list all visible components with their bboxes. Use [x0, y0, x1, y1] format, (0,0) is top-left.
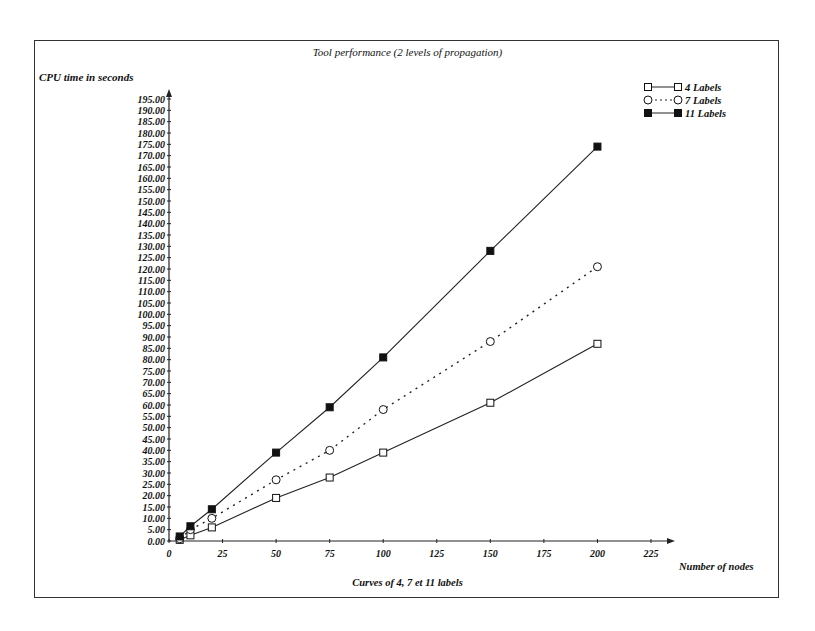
y-tick-label: 135.00	[138, 230, 166, 241]
y-tick-label: 195.00	[138, 94, 166, 105]
x-tick-label: 50	[271, 548, 281, 559]
y-tick-label: 155.00	[138, 184, 166, 195]
data-point-marker-icon	[594, 143, 601, 150]
data-point-marker-icon	[208, 514, 216, 522]
legend-item: 4 Labels	[645, 82, 722, 93]
data-point-marker-icon	[273, 449, 280, 456]
y-tick-label: 60.00	[143, 400, 166, 411]
y-tick-label: 0.00	[148, 536, 166, 547]
data-point-marker-icon	[593, 263, 601, 271]
y-tick-label: 15.00	[143, 502, 166, 513]
y-tick-label: 50.00	[143, 422, 166, 433]
legend-marker-icon	[675, 84, 682, 91]
legend-marker-icon	[644, 96, 652, 104]
y-tick-label: 95.00	[143, 320, 166, 331]
y-tick-label: 65.00	[143, 388, 166, 399]
y-tick-label: 35.00	[142, 456, 166, 467]
legend-label: 4 Labels	[684, 82, 721, 93]
y-tick-label: 10.00	[143, 513, 166, 524]
y-tick-label: 130.00	[138, 241, 166, 252]
y-axis-ticks: 0.005.0010.0015.0020.0025.0030.0035.0040…	[138, 94, 172, 547]
y-tick-label: 115.00	[138, 275, 165, 286]
legend-item: 11 Labels	[645, 108, 727, 119]
y-tick-label: 125.00	[138, 252, 166, 263]
series-11-labels	[176, 143, 601, 540]
y-tick-label: 100.00	[138, 309, 166, 320]
data-point-marker-icon	[208, 524, 215, 531]
plot-area: 0.005.0010.0015.0020.0025.0030.0035.0040…	[0, 0, 815, 631]
data-point-marker-icon	[380, 449, 387, 456]
y-tick-label: 175.00	[138, 139, 166, 150]
y-tick-label: 165.00	[138, 162, 166, 173]
data-point-marker-icon	[379, 406, 387, 414]
legend-marker-icon	[645, 110, 652, 117]
y-tick-label: 90.00	[143, 332, 166, 343]
data-point-marker-icon	[272, 476, 280, 484]
data-point-marker-icon	[273, 494, 280, 501]
y-axis-arrow-icon	[166, 89, 172, 97]
y-tick-label: 25.00	[142, 479, 166, 490]
y-tick-label: 40.00	[142, 445, 166, 456]
y-tick-label: 110.00	[138, 286, 165, 297]
y-tick-label: 45.00	[142, 434, 166, 445]
x-tick-label: 0	[167, 548, 172, 559]
data-point-marker-icon	[176, 533, 183, 540]
data-point-marker-icon	[487, 247, 494, 254]
data-point-marker-icon	[594, 340, 601, 347]
y-tick-label: 120.00	[138, 264, 166, 275]
data-point-marker-icon	[326, 474, 333, 481]
y-tick-label: 55.00	[143, 411, 166, 422]
legend-item: 7 Labels	[644, 95, 721, 106]
axes	[166, 89, 675, 544]
data-point-marker-icon	[187, 523, 194, 530]
y-tick-label: 5.00	[148, 524, 166, 535]
legend-label: 7 Labels	[685, 95, 721, 106]
series-line	[180, 344, 598, 540]
series-line	[180, 267, 598, 539]
data-series	[176, 143, 602, 543]
y-tick-label: 160.00	[138, 173, 166, 184]
y-tick-label: 185.00	[138, 116, 166, 127]
x-tick-label: 225	[643, 548, 659, 559]
y-tick-label: 75.00	[143, 366, 166, 377]
x-tick-label: 175	[536, 548, 551, 559]
data-point-marker-icon	[326, 446, 334, 454]
data-point-marker-icon	[208, 506, 215, 513]
y-tick-label: 20.00	[142, 490, 166, 501]
x-axis-ticks: 0255075100125150175200225	[167, 539, 659, 559]
x-tick-label: 25	[217, 548, 228, 559]
x-axis-arrow-icon	[667, 538, 675, 544]
y-tick-label: 150.00	[138, 196, 166, 207]
y-tick-label: 70.00	[143, 377, 166, 388]
x-tick-label: 100	[376, 548, 391, 559]
y-tick-label: 145.00	[138, 207, 166, 218]
x-tick-label: 75	[325, 548, 335, 559]
legend: 4 Labels7 Labels11 Labels	[644, 82, 726, 119]
x-tick-label: 150	[483, 548, 498, 559]
y-tick-label: 140.00	[138, 218, 166, 229]
data-point-marker-icon	[487, 399, 494, 406]
y-tick-label: 170.00	[138, 150, 166, 161]
y-tick-label: 105.00	[138, 298, 166, 309]
data-point-marker-icon	[380, 354, 387, 361]
legend-marker-icon	[675, 110, 682, 117]
x-tick-label: 200	[589, 548, 605, 559]
series-7-labels	[176, 263, 602, 543]
y-tick-label: 30.00	[142, 468, 166, 479]
y-tick-label: 190.00	[138, 105, 166, 116]
data-point-marker-icon	[486, 338, 494, 346]
legend-marker-icon	[674, 96, 682, 104]
legend-label: 11 Labels	[685, 108, 726, 119]
series-4-labels	[176, 340, 601, 543]
y-tick-label: 80.00	[143, 354, 166, 365]
series-line	[180, 147, 598, 537]
y-tick-label: 85.00	[143, 343, 166, 354]
data-point-marker-icon	[326, 404, 333, 411]
legend-marker-icon	[645, 84, 652, 91]
x-tick-label: 125	[429, 548, 444, 559]
y-tick-label: 180.00	[138, 128, 166, 139]
